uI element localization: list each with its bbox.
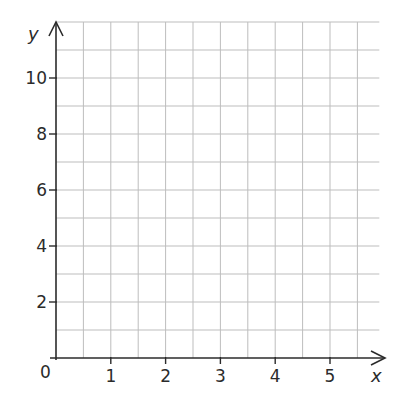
x-axis-label: x <box>370 365 382 386</box>
x-tick-label: 2 <box>160 366 171 386</box>
y-tick-label: 8 <box>36 124 47 144</box>
x-tick-label: 3 <box>215 366 226 386</box>
x-tick-label: 1 <box>105 366 116 386</box>
coordinate-grid: y x 0 12345246810 <box>0 0 405 401</box>
axis-ticks <box>49 78 330 364</box>
origin-label: 0 <box>40 362 51 382</box>
tick-labels: 12345246810 <box>25 68 335 386</box>
y-tick-label: 2 <box>36 292 47 312</box>
y-tick-label: 10 <box>25 68 47 88</box>
grid-lines <box>56 22 379 358</box>
x-tick-label: 5 <box>325 366 336 386</box>
x-tick-label: 4 <box>270 366 281 386</box>
y-axis-label: y <box>27 23 39 44</box>
y-tick-label: 6 <box>36 180 47 200</box>
y-tick-label: 4 <box>36 236 47 256</box>
